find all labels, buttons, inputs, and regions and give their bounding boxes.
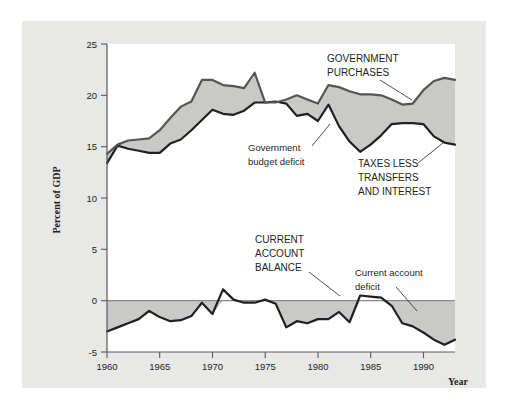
x-tick-label-1970: 1970 <box>202 361 223 372</box>
y-tick-label-0: 0 <box>92 295 97 306</box>
y-tick-label-15: 15 <box>86 141 97 152</box>
x-tick-label-1980: 1980 <box>307 361 328 372</box>
annotation-taxes-less-line3: AND INTEREST <box>358 186 431 197</box>
y-tick-label-10: 10 <box>86 193 97 204</box>
y-axis-title: Percent of GDP <box>51 166 62 233</box>
x-tick-label-1960: 1960 <box>96 361 117 372</box>
y-tick-label-5: 5 <box>92 244 97 255</box>
annotation-government-budget-deficit-line2: budget deficit <box>248 156 305 167</box>
figure-root: 25 20 15 10 5 0 -5 1960 1965 1970 1975 1… <box>0 0 507 408</box>
y-tick-label-neg5: -5 <box>89 347 97 358</box>
y-tick-label-20: 20 <box>86 90 97 101</box>
y-axis-ticks <box>101 44 107 352</box>
annotation-current-account-deficit-line2: deficit <box>355 281 380 292</box>
x-tick-label-1990: 1990 <box>413 361 434 372</box>
annotation-current-account-balance-line1: CURRENT <box>255 234 304 245</box>
economic-area-chart: 25 20 15 10 5 0 -5 1960 1965 1970 1975 1… <box>0 0 507 408</box>
annotation-government-purchases-line2: PURCHASES <box>327 67 390 78</box>
annotation-current-account-balance-line2: ACCOUNT <box>255 248 304 259</box>
annotation-taxes-less-line1: TAXES LESS <box>358 158 419 169</box>
chart-container: 25 20 15 10 5 0 -5 1960 1965 1970 1975 1… <box>0 0 507 408</box>
annotation-taxes-less-line2: TRANSFERS <box>358 172 419 183</box>
annotation-current-account-balance-line3: BALANCE <box>255 262 302 273</box>
y-tick-label-25: 25 <box>86 39 97 50</box>
x-axis-ticks <box>107 352 424 358</box>
x-tick-label-1985: 1985 <box>360 361 381 372</box>
annotation-current-account-deficit-line1: Current account <box>355 267 423 278</box>
annotation-government-budget-deficit-line1: Government <box>248 142 301 153</box>
x-tick-label-1975: 1975 <box>255 361 276 372</box>
x-tick-label-1965: 1965 <box>149 361 170 372</box>
annotation-government-purchases-line1: GOVERNMENT <box>327 53 399 64</box>
x-axis-title: Year <box>448 376 469 387</box>
